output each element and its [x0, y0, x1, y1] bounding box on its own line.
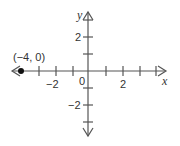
y-tick-label-2: 2: [75, 31, 81, 43]
point-label: (−4, 0): [13, 51, 45, 63]
y-axis-label: y: [76, 8, 83, 22]
coordinate-plane: (−4, 0) −2 2 0 2 −2 x y: [0, 0, 180, 146]
x-tick-label-neg2: −2: [46, 78, 59, 90]
x-axis-label: x: [161, 74, 168, 88]
point-marker: [18, 68, 24, 74]
x-axis: [12, 66, 166, 76]
y-tick-label-neg2: −2: [68, 99, 81, 111]
origin-label: 0: [79, 75, 85, 87]
x-tick-label-2: 2: [120, 78, 126, 90]
y-axis: [83, 12, 93, 136]
